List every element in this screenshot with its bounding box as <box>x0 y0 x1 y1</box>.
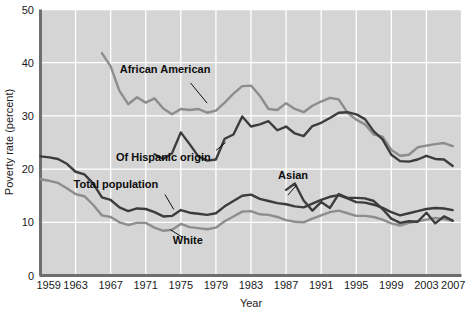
y-axis-title: Poverty rate (percent) <box>3 89 15 195</box>
x-tick-2007: 2007 <box>441 279 465 291</box>
y-tick-40: 40 <box>22 57 34 69</box>
y-tick-10: 10 <box>22 216 34 228</box>
series-label-white: White <box>173 234 203 246</box>
x-tick-1967: 1967 <box>98 279 122 291</box>
y-tick-50: 50 <box>22 4 34 16</box>
y-tick-20: 20 <box>22 163 34 175</box>
x-tick-1987: 1987 <box>274 279 298 291</box>
y-axis-tick-labels: 01020304050 <box>22 4 34 282</box>
x-tick-1983: 1983 <box>239 279 263 291</box>
series-label-total-population: Total population <box>74 178 159 190</box>
x-tick-1999: 1999 <box>379 279 403 291</box>
y-tick-30: 30 <box>22 110 34 122</box>
x-tick-1971: 1971 <box>134 279 158 291</box>
series-label-african-american: African American <box>120 63 211 75</box>
x-tick-1963: 1963 <box>63 279 87 291</box>
chart-canvas: 1959196319671971197519791983198719911995… <box>0 0 474 318</box>
x-axis-tick-labels: 1959196319671971197519791983198719911995… <box>37 279 466 291</box>
series-label-asian: Asian <box>278 169 308 181</box>
x-tick-1991: 1991 <box>309 279 333 291</box>
x-tick-1979: 1979 <box>204 279 228 291</box>
x-tick-2003: 2003 <box>414 279 438 291</box>
x-tick-1975: 1975 <box>169 279 193 291</box>
x-tick-1995: 1995 <box>344 279 368 291</box>
x-tick-1959: 1959 <box>37 279 61 291</box>
x-axis-title: Year <box>240 297 263 309</box>
series-label-of-hispanic-origin: Of Hispanic origin <box>116 151 211 163</box>
y-tick-0: 0 <box>28 270 34 282</box>
poverty-rate-chart-figure: 1959196319671971197519791983198719911995… <box>0 0 474 318</box>
